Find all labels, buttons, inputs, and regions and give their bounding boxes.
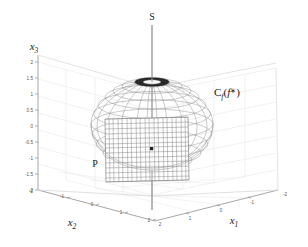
axis-x2-line bbox=[38, 190, 155, 221]
axis-title-x2: x2 bbox=[67, 216, 77, 231]
axis-x3-ticks bbox=[35, 62, 38, 190]
label-S: S bbox=[149, 11, 155, 22]
label-P: P bbox=[92, 158, 98, 169]
axis-title-x2-sub: 2 bbox=[73, 222, 77, 231]
tick-corner-1: 2 bbox=[159, 222, 162, 227]
axis-x3-ticklabels: 2 1.5 1 0.5 0 -0.5 -1 -1.5 -2 bbox=[25, 60, 33, 193]
axis-x2-ticks bbox=[67, 197, 156, 220]
tick-x2-0: -1 bbox=[60, 194, 65, 199]
label-set-paren-close: ) bbox=[236, 86, 240, 99]
tick-x1-0: 1 bbox=[189, 216, 192, 221]
tick-corner-0: -2 bbox=[29, 189, 34, 194]
label-set-Cf: Cf(f∗) bbox=[214, 86, 240, 101]
tick-x1-3: -2 bbox=[283, 192, 288, 197]
axis-title-x3: x3 bbox=[29, 40, 39, 55]
center-marker bbox=[150, 147, 153, 150]
axis-x2-ticklabels: -1 0 1 2 bbox=[60, 194, 151, 223]
axis-title-x1: x1 bbox=[229, 214, 239, 229]
axis-title-x3-sub: 3 bbox=[34, 46, 39, 55]
tick-x2-1: 0 bbox=[91, 202, 94, 207]
plot-canvas: 2 1.5 1 0.5 0 -0.5 -1 -1.5 -2 -1 0 1 2 1… bbox=[0, 0, 308, 247]
axis-corner-ticklabels: -2 2 bbox=[29, 189, 162, 227]
tick-x3-5: -0.5 bbox=[25, 140, 33, 145]
tick-x2-2: 1 bbox=[120, 210, 123, 215]
tick-x3-3: 0.5 bbox=[27, 108, 34, 113]
label-set-main: C bbox=[214, 86, 221, 98]
tick-x3-4: 0 bbox=[30, 124, 33, 129]
tick-x3-6: -1 bbox=[29, 156, 34, 161]
figure-3d-plot: 2 1.5 1 0.5 0 -0.5 -1 -1.5 -2 -1 0 1 2 1… bbox=[0, 0, 308, 247]
plane-P-grid bbox=[104, 115, 190, 185]
axis-x1-ticklabels: 1 0 -1 -2 bbox=[189, 192, 288, 221]
tick-x3-0: 2 bbox=[30, 60, 33, 65]
tick-x3-1: 1.5 bbox=[27, 76, 34, 81]
tick-x1-2: -1 bbox=[250, 200, 255, 205]
tick-x1-1: 0 bbox=[220, 208, 223, 213]
tick-x2-3: 2 bbox=[148, 218, 151, 223]
axis-title-x1-sub: 1 bbox=[235, 220, 239, 229]
tick-x3-7: -1.5 bbox=[25, 172, 33, 177]
tick-x3-2: 1 bbox=[30, 92, 33, 97]
